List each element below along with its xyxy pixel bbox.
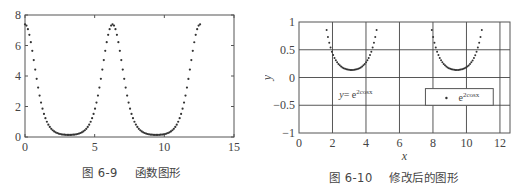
data-point [472, 59, 474, 61]
data-point [130, 113, 132, 115]
data-series [24, 23, 201, 136]
x-tick-label: 6 [396, 136, 402, 150]
data-point [184, 94, 186, 96]
x-tick-label: 10 [460, 136, 472, 150]
plot-area [25, 15, 234, 137]
data-point [126, 94, 128, 96]
y-tick-label: 1 [289, 15, 295, 29]
data-point [328, 42, 330, 44]
data-point [98, 87, 100, 89]
data-point [91, 117, 93, 119]
data-point [195, 34, 197, 36]
y-tick-label: 0 [289, 71, 295, 85]
data-point [334, 57, 336, 59]
legend-marker [445, 97, 447, 99]
data-point [435, 47, 437, 49]
data-point [27, 28, 29, 30]
data-point [364, 63, 366, 65]
data-point [46, 121, 48, 123]
data-point [38, 94, 40, 96]
x-axis-label: x [401, 149, 408, 163]
data-point [474, 54, 476, 56]
x-tick-label: 10 [158, 140, 170, 154]
data-point [94, 108, 96, 110]
data-point [436, 51, 438, 53]
data-point [176, 124, 178, 126]
data-point [100, 78, 102, 80]
data-point [129, 108, 131, 110]
x-tick-label: 2 [329, 136, 335, 150]
data-point [186, 87, 188, 89]
data-point [189, 69, 191, 71]
data-point [136, 126, 138, 128]
data-point [133, 121, 135, 123]
data-point [97, 94, 99, 96]
y-tick-label: 2 [15, 100, 21, 114]
data-point [107, 34, 109, 36]
figure-caption: 图 6-10 修改后的图形 [329, 169, 458, 185]
data-point [187, 78, 189, 80]
data-point [181, 108, 183, 110]
chart-modified-plot: −1−0.500.51024681012xyy= e2cosxe2cosx [265, 0, 529, 168]
data-point [190, 59, 192, 61]
data-point [43, 113, 45, 115]
data-point [109, 28, 111, 30]
data-point [469, 63, 471, 65]
x-tick-label: 15 [228, 140, 240, 154]
data-point [440, 59, 442, 61]
data-point [49, 126, 51, 128]
data-point [135, 124, 137, 126]
data-point [179, 117, 181, 119]
data-point [183, 102, 185, 104]
data-point [437, 54, 439, 56]
data-point [479, 36, 481, 38]
data-point [113, 24, 115, 26]
data-point [193, 41, 195, 43]
data-point [473, 57, 475, 59]
y-axis-label: y [265, 74, 274, 81]
data-point [95, 102, 97, 104]
y-tick-label: 8 [15, 8, 21, 22]
y-tick-label: 0.5 [280, 43, 295, 57]
data-point [125, 86, 127, 88]
y-tick-label: 0 [15, 130, 21, 144]
annotation-text: y= e2cosx [338, 88, 373, 100]
data-point [370, 51, 372, 53]
x-tick-label: 5 [92, 140, 98, 154]
data-point [431, 29, 433, 31]
data-point [174, 126, 176, 128]
chart-function-plot: 02468051015 [0, 0, 265, 160]
figure-6-10: −1−0.500.51024681012xyy= e2cosxe2cosx 图 … [265, 0, 529, 193]
data-point [92, 113, 94, 115]
data-point [335, 59, 337, 61]
data-point [44, 117, 46, 119]
data-point [477, 47, 479, 49]
data-point [336, 61, 338, 63]
y-tick-label: −1 [282, 126, 295, 140]
figure-6-9: 02468051015 图 6-9 函数图形 [0, 0, 265, 193]
data-point [41, 108, 43, 110]
data-point [25, 24, 27, 26]
data-point [103, 59, 105, 61]
data-point [34, 68, 36, 70]
x-tick-label: 0 [296, 136, 302, 150]
data-point [132, 117, 134, 119]
data-point [87, 126, 89, 128]
data-point [177, 121, 179, 123]
data-point [180, 113, 182, 115]
data-point [127, 101, 129, 103]
data-point [373, 42, 375, 44]
data-point [90, 121, 92, 123]
data-point [117, 41, 119, 43]
data-point [369, 54, 371, 56]
x-tick-label: 4 [363, 136, 369, 150]
data-point [330, 47, 332, 49]
data-point [30, 41, 32, 43]
data-point [40, 101, 42, 103]
data-point [470, 61, 472, 63]
data-point [327, 36, 329, 38]
data-point [119, 50, 121, 52]
y-tick-label: 6 [15, 39, 21, 53]
data-point [116, 34, 118, 36]
data-point [88, 124, 90, 126]
